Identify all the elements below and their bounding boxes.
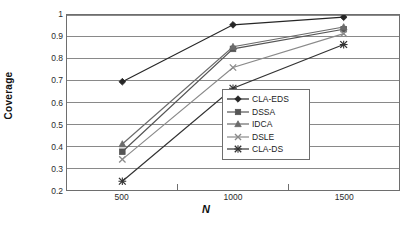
legend-item-cla-ds[interactable]: CLA-DS <box>226 143 305 156</box>
data-point-marker-cross-x <box>119 156 125 162</box>
data-point-marker-cross-x <box>230 64 236 70</box>
data-point-marker-diamond <box>119 78 126 85</box>
y-tick-label: 0.8 <box>37 54 63 63</box>
data-point-marker-star-x <box>118 177 126 185</box>
legend-swatch-star-x <box>226 143 250 155</box>
y-axis-title-label: Coverage <box>4 71 15 119</box>
data-point-marker-star-x <box>340 41 348 49</box>
legend-label: CLA-EDS <box>250 95 289 104</box>
legend-item-cla-eds[interactable]: CLA-EDS <box>226 93 305 106</box>
data-point-marker-diamond <box>340 15 347 21</box>
legend-swatch-square <box>226 106 250 118</box>
coverage-line-chart: Coverage 10.90.80.70.60.50.40.30.2 50010… <box>0 0 412 225</box>
y-tick-label: 0.3 <box>37 165 63 174</box>
data-point-marker-diamond <box>230 21 237 28</box>
data-point-marker-square <box>235 109 240 114</box>
legend-swatch-cross-x <box>226 131 250 143</box>
data-point-marker-square <box>120 149 126 155</box>
data-point-marker-diamond <box>235 96 241 102</box>
y-axis-tick-labels: 10.90.80.70.60.50.40.30.2 <box>18 0 63 225</box>
y-tick-label: 0.9 <box>37 32 63 41</box>
y-tick-label: 0.5 <box>37 120 63 129</box>
legend-item-dsle[interactable]: DSLE <box>226 131 305 144</box>
x-axis-title: N <box>0 203 412 215</box>
legend-label: CLA-DS <box>250 145 283 154</box>
legend-label: DSLE <box>250 133 274 142</box>
y-tick-label: 0.4 <box>37 143 63 152</box>
y-axis-title: Coverage <box>0 0 18 190</box>
legend-swatch-triangle <box>226 118 250 130</box>
y-tick-label: 0.7 <box>37 76 63 85</box>
x-tick-label: 1500 <box>335 192 354 202</box>
data-point-marker-star-x <box>234 146 241 153</box>
x-tick-label: 1000 <box>224 192 243 202</box>
legend-label: IDCA <box>250 120 272 129</box>
legend-label: DSSA <box>250 108 275 117</box>
y-tick-label: 1 <box>37 10 63 19</box>
y-tick-label: 0.2 <box>37 187 63 196</box>
y-tick-label: 0.6 <box>37 98 63 107</box>
chart-legend: CLA-EDSDSSAIDCADSLECLA-DS <box>222 89 310 160</box>
legend-item-dssa[interactable]: DSSA <box>226 106 305 119</box>
x-axis-title-label: N <box>202 203 210 215</box>
legend-swatch-diamond <box>226 93 250 105</box>
x-tick-label: 500 <box>115 192 129 202</box>
legend-item-idca[interactable]: IDCA <box>226 118 305 131</box>
